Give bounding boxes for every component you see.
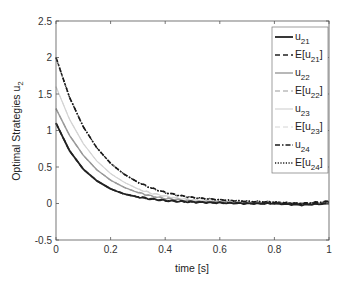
x-tick-label: 0.8 [267, 244, 281, 255]
y-tick-label: 2 [46, 52, 52, 63]
x-tick-label: 0 [53, 244, 59, 255]
line-chart: 00.20.40.60.81-0.500.511.522.5 time [s] … [0, 0, 346, 282]
legend: u21E[u21]u22E[u22]u23E[u23]u24E[u24] [272, 27, 328, 173]
x-tick-label: 0.4 [158, 244, 172, 255]
y-tick-label: -0.5 [35, 235, 53, 246]
y-tick-label: 1 [46, 125, 52, 136]
y-tick-label: 1.5 [38, 89, 52, 100]
x-tick-label: 0.2 [104, 244, 118, 255]
y-tick-label: 0 [46, 198, 52, 209]
x-axis-label: time [s] [175, 262, 209, 274]
y-axis-label: Optimal Strategies u2 [10, 81, 25, 181]
y-tick-label: 0.5 [38, 162, 52, 173]
x-tick-label: 1 [326, 244, 332, 255]
x-tick-label: 0.6 [213, 244, 227, 255]
y-tick-label: 2.5 [38, 16, 52, 27]
